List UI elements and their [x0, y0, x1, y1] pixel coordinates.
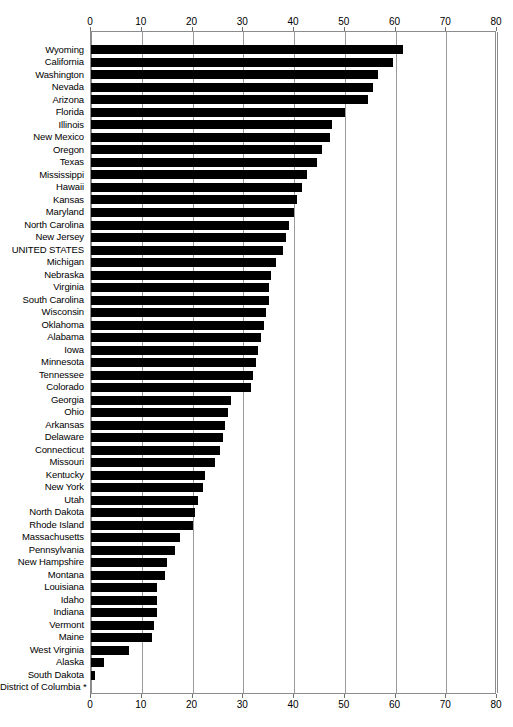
bar-row: Alabama: [0, 331, 513, 344]
bar: [91, 246, 283, 255]
x-tick-label-20: 20: [186, 16, 197, 27]
x-tick-mark-60: [395, 694, 396, 698]
category-label: Kentucky: [0, 469, 84, 482]
category-label: North Carolina: [0, 219, 84, 232]
bar: [91, 233, 286, 242]
bar: [91, 120, 332, 129]
x-tick-mark-40: [293, 694, 294, 698]
bar-row: Delaware: [0, 431, 513, 444]
bar-row: West Virginia: [0, 644, 513, 657]
bar: [91, 558, 167, 567]
category-label: South Carolina: [0, 294, 84, 307]
bar-row: North Dakota: [0, 506, 513, 519]
bar-row: Mississippi: [0, 169, 513, 182]
x-tick-label-50: 50: [338, 699, 349, 710]
bar-row: Idaho: [0, 594, 513, 607]
x-tick-label-20: 20: [186, 699, 197, 710]
bar-row: South Carolina: [0, 294, 513, 307]
bar: [91, 396, 231, 405]
category-label: Maryland: [0, 206, 84, 219]
bar-row: Colorado: [0, 381, 513, 394]
category-label: Arizona: [0, 94, 84, 107]
category-label: Kansas: [0, 194, 84, 207]
bar: [91, 308, 266, 317]
bar-row: New Mexico: [0, 131, 513, 144]
bar-row: Michigan: [0, 256, 513, 269]
bar: [91, 621, 154, 630]
category-label: West Virginia: [0, 644, 84, 657]
bar: [91, 371, 253, 380]
category-label: California: [0, 56, 84, 69]
bar: [91, 145, 322, 154]
bar-row: Virginia: [0, 281, 513, 294]
bar-row: Pennsylvania: [0, 544, 513, 557]
category-label: North Dakota: [0, 506, 84, 519]
category-label: Hawaii: [0, 181, 84, 194]
category-label: Mississippi: [0, 169, 84, 182]
category-label: Tennessee: [0, 369, 84, 382]
bar: [91, 170, 307, 179]
category-label: New Hampshire: [0, 556, 84, 569]
category-label: Washington: [0, 69, 84, 82]
bar-row: Washington: [0, 69, 513, 82]
bar: [91, 433, 223, 442]
bar-row: Alaska: [0, 656, 513, 669]
category-label: Louisiana: [0, 581, 84, 594]
bar: [91, 283, 269, 292]
category-label: Oklahoma: [0, 319, 84, 332]
bar: [91, 596, 157, 605]
bar-row: Louisiana: [0, 581, 513, 594]
bar-row: Wisconsin: [0, 306, 513, 319]
bar-chart: 01020304050607080 01020304050607080 Wyom…: [0, 0, 513, 727]
bar-row: Tennessee: [0, 369, 513, 382]
category-label: Missouri: [0, 456, 84, 469]
category-label: Texas: [0, 156, 84, 169]
bar-row: Nebraska: [0, 269, 513, 282]
bar-row: Florida: [0, 106, 513, 119]
category-label: Arkansas: [0, 419, 84, 432]
bar: [91, 508, 195, 517]
category-label: Rhode Island: [0, 519, 84, 532]
bar: [91, 58, 393, 67]
bar: [91, 658, 104, 667]
bar: [91, 496, 198, 505]
category-label: District of Columbia *: [0, 681, 84, 694]
category-label: Maine: [0, 631, 84, 644]
bar: [91, 45, 403, 54]
category-label: Connecticut: [0, 444, 84, 457]
bar-row: Missouri: [0, 456, 513, 469]
bar-row: Connecticut: [0, 444, 513, 457]
bar: [91, 271, 271, 280]
category-label: Vermont: [0, 619, 84, 632]
bar-row: UNITED STATES: [0, 244, 513, 257]
x-tick-mark-20: [192, 694, 193, 698]
bar: [91, 133, 330, 142]
category-label: Wyoming: [0, 44, 84, 57]
category-label: Florida: [0, 106, 84, 119]
category-label: New York: [0, 481, 84, 494]
bar: [91, 546, 175, 555]
x-tick-mark-50: [344, 694, 345, 698]
x-tick-label-60: 60: [389, 699, 400, 710]
category-label: Idaho: [0, 594, 84, 607]
bar-row: New Jersey: [0, 231, 513, 244]
category-label: Delaware: [0, 431, 84, 444]
bar: [91, 258, 276, 267]
bar-row: Oregon: [0, 144, 513, 157]
bar: [91, 608, 157, 617]
category-label: Pennsylvania: [0, 544, 84, 557]
bar-row: Illinois: [0, 119, 513, 132]
bar: [91, 446, 220, 455]
category-label: New Jersey: [0, 231, 84, 244]
category-label: Nebraska: [0, 269, 84, 282]
bar: [91, 633, 152, 642]
bar: [91, 346, 258, 355]
x-tick-label-80: 80: [490, 16, 501, 27]
bar: [91, 158, 317, 167]
bar-row: New York: [0, 481, 513, 494]
bar-row: New Hampshire: [0, 556, 513, 569]
bar-row: Texas: [0, 156, 513, 169]
bar: [91, 70, 378, 79]
x-tick-label-30: 30: [237, 16, 248, 27]
x-tick-mark-70: [445, 694, 446, 698]
